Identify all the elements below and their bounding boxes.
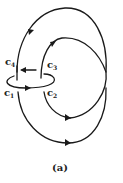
outer-arc [17,8,106,72]
arrow-inner [50,41,56,47]
label-c4: c4 [5,56,15,68]
arrow-left [20,67,26,73]
label-c2: c2 [47,87,57,99]
inner-arc [41,38,106,118]
arrow-lower-outer [65,139,71,146]
figure-caption: (a) [52,162,68,173]
label-c1: c1 [4,87,14,99]
arrow-outer [28,29,34,35]
arrow-lower-inner [65,114,71,121]
ring-back [7,74,54,88]
ring-arrow-bottom [25,85,31,91]
label-c3: c3 [47,59,57,71]
knot-diagram: c4 c3 c1 c2 (a) [0,0,123,183]
